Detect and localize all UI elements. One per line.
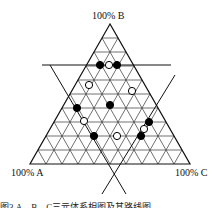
open-point	[85, 81, 92, 88]
vertex-label-c: 100% C	[175, 167, 208, 178]
filled-point	[96, 61, 103, 68]
vertex-label-a: 100% A	[11, 167, 44, 178]
filled-point	[137, 132, 144, 139]
figure-caption: 图3 A、B、C三元体系相图及其路线图	[0, 200, 216, 208]
filled-point	[73, 104, 80, 111]
open-point	[80, 117, 87, 124]
vertex-label-b: 100% B	[92, 10, 125, 21]
open-point	[113, 132, 120, 139]
open-point	[128, 87, 135, 94]
filled-point	[145, 118, 152, 125]
filled-point	[106, 101, 113, 108]
filled-point	[113, 61, 120, 68]
filled-point	[90, 132, 97, 139]
open-point	[140, 125, 147, 132]
open-point	[105, 61, 112, 68]
data-points	[73, 61, 152, 139]
